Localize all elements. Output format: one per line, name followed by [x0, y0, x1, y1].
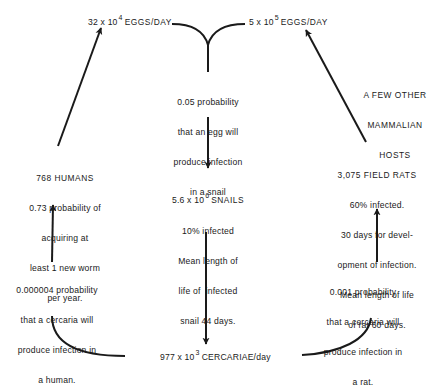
cercariae-label: 977 x 103CERCARIAE/day [160, 352, 271, 363]
rats-heading: 3,075 FIELD RATS [322, 170, 432, 180]
snails-unit: SNAILS [211, 195, 244, 205]
text-line: a human. [5, 375, 109, 385]
snails-exponent: 6 [205, 192, 209, 199]
text-line: 0.05 probability [163, 97, 253, 107]
cercaria-to-rat-probability: 0.001 probability that a cercaria will p… [311, 267, 415, 389]
text-line: A FEW OTHER [355, 90, 435, 100]
left-eggs-curve [172, 24, 208, 45]
left-eggs-unit: EGGS/DAY [125, 17, 172, 27]
text-line: 0.000004 probability [5, 285, 109, 295]
right-eggs-mantissa: 5 x 10 [249, 17, 274, 27]
text-line: 0.001 probability [311, 287, 415, 297]
right-eggs-curve [208, 24, 245, 45]
snails-mantissa: 5.6 x 10 [172, 195, 204, 205]
left-eggs-mantissa: 32 x 10 [88, 17, 118, 27]
text-line: life of infected [158, 286, 258, 296]
text-line: Mean length of [158, 256, 258, 266]
text-line: 30 days for devel- [322, 230, 432, 240]
text-line: that an egg will [163, 127, 253, 137]
text-line: produce infection in [311, 347, 415, 357]
text-line: produce infection [163, 157, 253, 167]
text-line: produce infection in [5, 345, 109, 355]
right-eggs-label: 5 x 105EGGS/DAY [249, 17, 328, 28]
snails-heading: 5.6 x 106SNAILS [158, 195, 258, 206]
cercaria-to-human-probability: 0.000004 probability that a cercaria wil… [5, 265, 109, 389]
text-line: MAMMALIAN [355, 120, 435, 130]
snails-block: 5.6 x 106SNAILS 10% infected Mean length… [158, 175, 258, 336]
left-eggs-exponent: 4 [119, 14, 123, 21]
text-line: 60% infected. [322, 200, 432, 210]
text-line: 0.73 probability of [15, 203, 115, 213]
text-line: that a cercaria will [311, 317, 415, 327]
text-line: that a cercaria will [5, 315, 109, 325]
text-line: 10% infected [158, 226, 258, 236]
left-eggs-label: 32 x 104EGGS/DAY [88, 17, 172, 28]
text-line: acquiring at [15, 233, 115, 243]
humans-to-eggs-arrow [58, 28, 101, 146]
text-line: a rat. [311, 377, 415, 387]
cercariae-exponent: 3 [196, 349, 200, 356]
cercariae-mantissa: 977 x 10 [160, 352, 195, 362]
text-line: snail 44 days. [158, 316, 258, 326]
humans-heading: 768 HUMANS [15, 173, 115, 183]
right-eggs-exponent: 5 [275, 14, 279, 21]
cercariae-unit: CERCARIAE/day [202, 352, 271, 362]
right-eggs-unit: EGGS/DAY [281, 17, 328, 27]
